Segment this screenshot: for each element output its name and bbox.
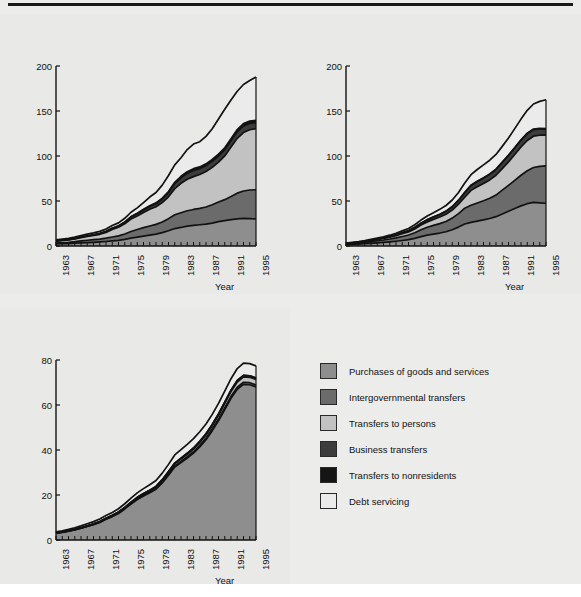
legend-swatch-intergovernmental xyxy=(320,389,337,405)
legend-item[interactable]: Purchases of goods and services xyxy=(320,358,570,384)
x-tick-label: 1987 xyxy=(210,255,221,276)
x-tick-label: 1995 xyxy=(260,549,271,570)
x-tick-label: 1967 xyxy=(375,255,386,276)
x-tick-label: 1983 xyxy=(185,549,196,570)
x-tick-label: 1979 xyxy=(450,255,461,276)
bottom-white-strip xyxy=(0,584,581,597)
y-tick-label: 50 xyxy=(26,196,52,207)
x-tick-label: 1983 xyxy=(475,255,486,276)
legend-label-intergovernmental: Intergovernmental transfers xyxy=(349,392,465,403)
legend-item[interactable]: Intergovernmental transfers xyxy=(320,384,570,410)
x-tick-label: 1975 xyxy=(135,255,146,276)
y-tick-label: 150 xyxy=(26,106,52,117)
x-tick-label: 1971 xyxy=(110,255,121,276)
x-tick-label: 1995 xyxy=(550,255,561,276)
x-tick-label: 1987 xyxy=(500,255,511,276)
x-tick-label: 1971 xyxy=(110,549,121,570)
legend-swatch-purchases xyxy=(320,363,337,379)
figure-page: (a) Federal Billions of $ Year 050100150… xyxy=(0,0,581,597)
x-tick-label: 1991 xyxy=(235,549,246,570)
x-axis-label-federal: Year xyxy=(215,281,234,292)
y-tick-label: 200 xyxy=(316,61,342,72)
x-tick-label: 1975 xyxy=(135,549,146,570)
y-tick-label: 0 xyxy=(316,241,342,252)
y-tick-label: 0 xyxy=(26,241,52,252)
y-tick-label: 40 xyxy=(26,445,52,456)
panel-local: (c) Local Billions of $ Year 02040608019… xyxy=(0,308,290,588)
chart-legend: Purchases of goods and services Intergov… xyxy=(320,358,570,514)
legend-swatch-business xyxy=(320,441,337,457)
legend-item[interactable]: Business transfers xyxy=(320,436,570,462)
top-horizontal-rule xyxy=(8,3,573,6)
x-tick-label: 1963 xyxy=(350,255,361,276)
y-tick-label: 150 xyxy=(316,106,342,117)
x-tick-label: 1979 xyxy=(160,549,171,570)
x-tick-label: 1963 xyxy=(60,255,71,276)
legend-item[interactable]: Transfers to nonresidents xyxy=(320,462,570,488)
x-tick-label: 1991 xyxy=(525,255,536,276)
legend-label-purchases: Purchases of goods and services xyxy=(349,366,489,377)
legend-label-debt: Debt servicing xyxy=(349,496,409,507)
y-tick-label: 50 xyxy=(316,196,342,207)
legend-item[interactable]: Transfers to persons xyxy=(320,410,570,436)
legend-label-nonresidents: Transfers to nonresidents xyxy=(349,470,456,481)
x-tick-label: 1979 xyxy=(160,255,171,276)
y-tick-label: 60 xyxy=(26,400,52,411)
panel-provincial: (b) Provincial Billions of $ Year 050100… xyxy=(290,14,581,294)
x-tick-label: 1987 xyxy=(210,549,221,570)
x-tick-label: 1967 xyxy=(85,549,96,570)
legend-swatch-persons xyxy=(320,415,337,431)
y-tick-label: 100 xyxy=(316,151,342,162)
y-tick-label: 200 xyxy=(26,61,52,72)
x-tick-label: 1963 xyxy=(60,549,71,570)
y-tick-label: 0 xyxy=(26,535,52,546)
y-tick-label: 20 xyxy=(26,490,52,501)
legend-swatch-nonresidents xyxy=(320,467,337,483)
legend-swatch-debt xyxy=(320,493,337,509)
x-tick-label: 1975 xyxy=(425,255,436,276)
legend-item[interactable]: Debt servicing xyxy=(320,488,570,514)
legend-label-business: Business transfers xyxy=(349,444,427,455)
x-tick-label: 1971 xyxy=(400,255,411,276)
y-tick-label: 100 xyxy=(26,151,52,162)
legend-label-persons: Transfers to persons xyxy=(349,418,436,429)
panel-federal: (a) Federal Billions of $ Year 050100150… xyxy=(0,14,290,294)
x-axis-label-provincial: Year xyxy=(505,281,524,292)
x-tick-label: 1991 xyxy=(235,255,246,276)
x-tick-label: 1983 xyxy=(185,255,196,276)
x-tick-label: 1995 xyxy=(260,255,271,276)
y-tick-label: 80 xyxy=(26,355,52,366)
x-tick-label: 1967 xyxy=(85,255,96,276)
